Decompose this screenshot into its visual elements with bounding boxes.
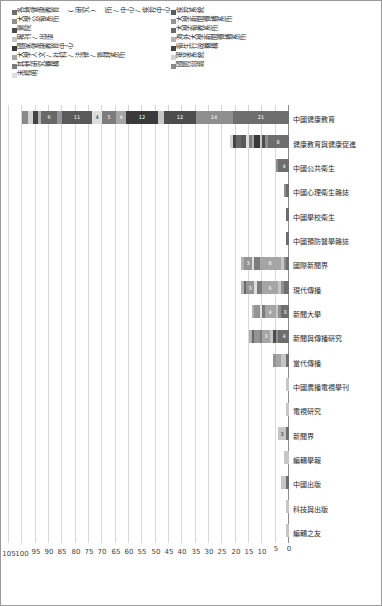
bar-segment[interactable] (276, 354, 281, 367)
legend-item[interactable]: 未標明 (11, 71, 38, 78)
bar-segment[interactable] (241, 281, 244, 294)
bar-segment[interactable] (286, 208, 289, 221)
stacked-bar[interactable] (273, 354, 289, 367)
legend-item[interactable]: 國家健康教育中心 (11, 44, 73, 51)
bar-segment[interactable]: 4 (278, 159, 289, 172)
bar-segment[interactable] (265, 135, 268, 148)
stacked-bar[interactable]: 34 (252, 305, 289, 318)
bar-segment[interactable] (273, 354, 276, 367)
bar-segment[interactable] (249, 135, 252, 148)
bar-segment[interactable] (38, 111, 41, 124)
bar-segment[interactable] (260, 305, 263, 318)
bar-column[interactable]: 83國際新聞界 (9, 251, 289, 275)
bar-segment[interactable] (260, 330, 263, 343)
bar-segment[interactable]: 4 (278, 330, 289, 343)
bar-column[interactable]: 編輯之友 (9, 519, 289, 543)
bar-column[interactable]: 34新聞大學 (9, 300, 289, 324)
bar-segment[interactable]: 3 (246, 281, 254, 294)
stacked-bar[interactable]: 63 (241, 281, 289, 294)
legend-item[interactable]: 疾控系統 (170, 8, 204, 15)
bar-column[interactable]: 中國心理衛生雜誌 (9, 178, 289, 202)
bar-segment[interactable] (286, 500, 289, 513)
bar-segment[interactable] (254, 281, 257, 294)
bar-segment[interactable] (270, 330, 273, 343)
bar-segment[interactable] (286, 378, 289, 391)
stacked-bar[interactable]: 8 (230, 135, 289, 148)
bar-segment[interactable]: 3 (278, 427, 286, 440)
bar-segment[interactable]: 4 (265, 305, 276, 318)
bar-segment[interactable] (286, 403, 289, 416)
stacked-bar[interactable] (286, 500, 289, 513)
bar-segment[interactable] (281, 257, 284, 270)
bar-segment[interactable] (244, 281, 247, 294)
bar-segment[interactable] (254, 257, 259, 270)
bar-segment[interactable] (262, 305, 265, 318)
bar-segment[interactable] (57, 111, 62, 124)
bar-segment[interactable] (276, 305, 279, 318)
bar-column[interactable]: 科技與出版 (9, 494, 289, 518)
bar-segment[interactable] (241, 257, 244, 270)
bar-segment[interactable]: 12 (126, 111, 158, 124)
bar-segment[interactable] (252, 135, 255, 148)
bar-segment[interactable]: 12 (164, 111, 196, 124)
legend-item[interactable]: 國際組織 (170, 62, 204, 69)
stacked-bar[interactable] (286, 403, 289, 416)
legend-item[interactable]: 衛生行政機構 (170, 44, 218, 51)
bar-column[interactable]: 21141212454116中國健康教育 (9, 105, 289, 129)
bar-segment[interactable] (286, 232, 289, 245)
bar-segment[interactable] (158, 111, 163, 124)
bar-segment[interactable] (284, 257, 287, 270)
bar-column[interactable]: 編輯學報 (9, 446, 289, 470)
bar-segment[interactable] (233, 135, 236, 148)
bar-segment[interactable] (33, 111, 38, 124)
stacked-bar[interactable] (284, 451, 289, 464)
bar-segment[interactable] (252, 257, 255, 270)
bar-column[interactable]: 4中國公共衛生 (9, 154, 289, 178)
legend-item[interactable]: 其他研究機構 (11, 62, 59, 69)
bar-segment[interactable] (278, 281, 281, 294)
bar-segment[interactable] (286, 184, 289, 197)
bar-segment[interactable] (22, 111, 27, 124)
bar-segment[interactable] (241, 135, 246, 148)
bar-column[interactable]: 中國出版 (9, 470, 289, 494)
legend-item[interactable]: 大學新聞傳播系所 (170, 17, 232, 24)
bar-segment[interactable] (273, 330, 276, 343)
bar-segment[interactable] (284, 184, 287, 197)
bar-segment[interactable] (252, 305, 255, 318)
bar-segment[interactable]: 14 (196, 111, 233, 124)
bar-segment[interactable] (281, 354, 286, 367)
bar-segment[interactable] (254, 305, 259, 318)
bar-column[interactable]: 當代傳播 (9, 348, 289, 372)
bar-segment[interactable]: 3 (281, 305, 289, 318)
bar-segment[interactable]: 8 (268, 135, 289, 148)
legend-item[interactable]: 醫院 (11, 26, 31, 33)
bar-segment[interactable]: 6 (41, 111, 57, 124)
legend-item[interactable]: 大學人文/社科/法律/管理系所 (11, 53, 125, 60)
bar-segment[interactable]: 3 (244, 257, 252, 270)
bar-segment[interactable] (276, 330, 279, 343)
bar-column[interactable]: 中國學校衛生 (9, 202, 289, 226)
bar-segment[interactable] (286, 524, 289, 537)
bar-segment[interactable] (230, 135, 233, 148)
bar-segment[interactable] (260, 135, 263, 148)
stacked-bar[interactable]: 83 (241, 257, 289, 270)
bar-segment[interactable] (286, 354, 289, 367)
stacked-bar[interactable] (286, 524, 289, 537)
stacked-bar[interactable] (286, 208, 289, 221)
bar-segment[interactable]: 8 (260, 257, 281, 270)
legend-item[interactable]: 報刊/出版 (11, 35, 53, 42)
bar-segment[interactable]: 4 (116, 111, 127, 124)
bar-segment[interactable] (257, 281, 262, 294)
legend-item[interactable]: 軍某系統 (170, 53, 204, 60)
legend-item[interactable]: 大學衛教系所 (170, 26, 218, 33)
bar-segment[interactable] (249, 330, 252, 343)
bar-segment[interactable] (281, 476, 286, 489)
bar-column[interactable]: 3新聞界 (9, 421, 289, 445)
bar-column[interactable]: 中國廣播電視學刊 (9, 373, 289, 397)
bar-segment[interactable] (254, 135, 259, 148)
bar-segment[interactable]: 5 (102, 111, 115, 124)
bar-segment[interactable] (284, 281, 289, 294)
stacked-bar[interactable]: 43 (249, 330, 289, 343)
bar-column[interactable]: 中國預防醫學雜誌 (9, 227, 289, 251)
stacked-bar[interactable]: 21141212454116 (22, 111, 289, 124)
